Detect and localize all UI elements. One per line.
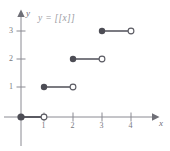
open-point-2-1 xyxy=(70,84,76,90)
step-segments-group xyxy=(21,31,131,117)
filled-point-2-2 xyxy=(70,56,76,62)
x-tick-label-1: 1 xyxy=(42,122,46,130)
y-axis-arrow-icon xyxy=(17,10,24,18)
y-axis-label: y xyxy=(26,9,30,18)
x-tick-label-4: 4 xyxy=(129,122,133,130)
open-endpoints-group xyxy=(41,28,134,120)
x-axis-label: x xyxy=(159,119,163,128)
y-tick-label-2: 2 xyxy=(9,55,13,63)
filled-point-3-3 xyxy=(99,28,105,34)
filled-endpoints-group xyxy=(17,28,105,121)
open-point-1-0 xyxy=(41,114,47,120)
filled-point-1-1 xyxy=(41,84,47,90)
open-point-4-3 xyxy=(128,28,134,34)
open-point-3-2 xyxy=(99,56,105,62)
y-tick-label-1: 1 xyxy=(9,83,13,91)
greatest-integer-function-figure: y = [[x]] 1 2 3 4 1 2 3 y x xyxy=(0,0,170,151)
graph-canvas xyxy=(0,0,170,151)
function-equation-label: y = [[x]] xyxy=(38,14,75,24)
x-tick-label-2: 2 xyxy=(71,122,75,130)
filled-point-origin xyxy=(17,113,24,120)
x-tick-label-3: 3 xyxy=(100,122,104,130)
axes-group xyxy=(4,10,160,147)
y-tick-label-3: 3 xyxy=(9,27,13,35)
